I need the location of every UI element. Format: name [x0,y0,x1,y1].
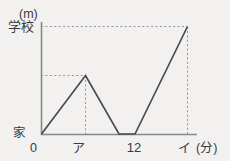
y-axis-home-label: 家 [13,125,26,140]
x-axis-origin-label: 0 [30,141,37,155]
graph-svg: (m) 学校 家 0 ア 12 イ (分) [0,0,230,161]
y-axis-school-label: 学校 [8,19,34,34]
distance-time-graph-figure: (m) 学校 家 0 ア 12 イ (分) [0,0,230,161]
x-axis-tick-i: イ [178,140,191,155]
x-axis-tick-12: 12 [127,140,141,155]
x-axis-tick-a: ア [72,140,85,155]
distance-time-polyline [42,27,188,135]
x-axis-unit-label: (分) [196,141,217,155]
